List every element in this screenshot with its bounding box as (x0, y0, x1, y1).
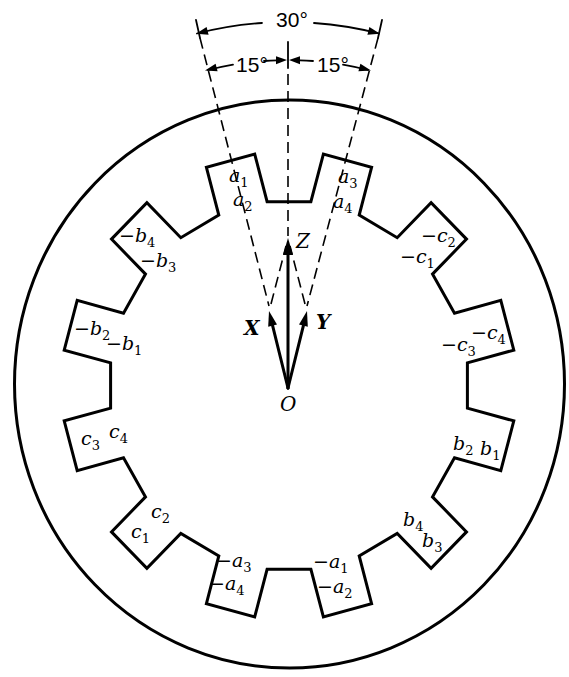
slot-label: b2 (453, 432, 473, 458)
slot-label: −a4 (209, 572, 245, 598)
slot-label: a2 (233, 188, 253, 214)
arrowhead-right-icon (276, 56, 287, 64)
slot-label: −a1 (313, 550, 349, 576)
slot-label: b3 (422, 529, 442, 555)
slot-label: −b1 (106, 332, 142, 358)
phasor-label-x: X (242, 316, 261, 340)
slot-label: c1 (131, 520, 150, 546)
left-tick (196, 20, 200, 38)
slot-label: −c4 (471, 321, 506, 347)
arrowhead-up-icon (268, 311, 277, 327)
angle-label-15-right: 15° (317, 53, 349, 76)
angle-label-15-left: 15° (236, 53, 268, 76)
slot-label: c3 (81, 427, 100, 453)
slot-label: −b3 (140, 249, 176, 275)
slot-label: c4 (109, 420, 128, 446)
phasor-diagram: Z X Y O (242, 229, 332, 416)
arrowhead-right-icon (367, 27, 380, 35)
phasor-label-y: Y (316, 310, 332, 334)
stator-winding-diagram: 30° 15° 15° Z X Y O a3 a4 −c2 −c1 −c3 −c… (0, 0, 569, 677)
slot-label: −a2 (317, 575, 353, 601)
slot-label: c2 (151, 500, 170, 526)
right-tick (378, 20, 382, 38)
arc-15-right-inner (300, 60, 313, 61)
slot-label: a3 (338, 165, 358, 191)
phasor-y-arrow (288, 326, 303, 388)
arrowhead-right-icon (358, 64, 371, 71)
arrowhead-left-icon (289, 56, 300, 64)
slot-label: −c1 (400, 245, 435, 271)
slot-label: b1 (480, 437, 500, 463)
slot-label: b4 (403, 508, 423, 534)
slot-label: −b2 (74, 317, 110, 343)
arrowhead-up-icon (299, 311, 308, 327)
arrowhead-up-icon (283, 238, 293, 255)
origin-label-o: O (280, 392, 296, 416)
slot-label: a4 (333, 190, 353, 216)
slot-label: −b4 (119, 224, 155, 250)
phasor-label-z: Z (295, 229, 311, 253)
phasor-x-arrow (273, 326, 288, 388)
angle-label-30: 30° (276, 8, 308, 31)
